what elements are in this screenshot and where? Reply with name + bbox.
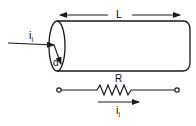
diagram-canvas: L il d R il bbox=[0, 0, 196, 126]
current-subscript: l bbox=[31, 36, 33, 43]
resistor-circuit bbox=[57, 85, 179, 95]
terminal-right-icon bbox=[175, 88, 179, 92]
current-subscript: l bbox=[118, 111, 120, 118]
cylinder bbox=[49, 21, 190, 71]
input-current-label: il bbox=[29, 30, 33, 41]
terminal-left-icon bbox=[57, 88, 61, 92]
resistance-label: R bbox=[115, 74, 122, 84]
diameter-label: d bbox=[53, 58, 59, 68]
length-label: L bbox=[116, 9, 122, 20]
cylinder-body bbox=[57, 21, 190, 71]
input-current-arrow-icon bbox=[8, 43, 54, 45]
resistor-icon bbox=[97, 85, 131, 95]
resistor-current-label: il bbox=[116, 105, 120, 116]
diagram-drawing bbox=[0, 0, 196, 126]
